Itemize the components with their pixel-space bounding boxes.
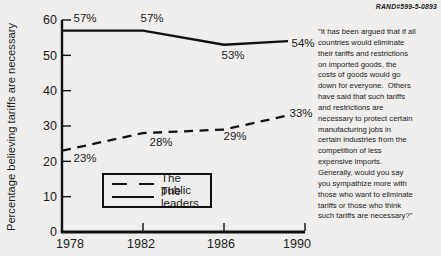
dashed-line-sample [112,183,154,185]
legend: The public The leaders [102,173,212,208]
x-tick-label: 1990 [283,237,311,251]
y-tick-label: 60 [43,13,57,27]
point-label: 23% [73,152,96,164]
x-tick-label: 1978 [56,237,84,251]
legend-item-leaders: The leaders [112,191,210,204]
point-label: 28% [149,136,172,148]
x-tick-label: 1982 [127,237,155,251]
legend-label-leaders: The leaders [161,185,210,209]
point-label: 33% [289,107,312,119]
y-tick-label: 40 [43,84,57,98]
point-label: 54% [291,37,314,49]
y-tick-label: 50 [43,49,57,63]
series-line-the-public [62,115,288,150]
point-label: 53% [221,49,244,61]
y-tick-label: 10 [43,190,57,204]
figure: RAND#599-5-0893 Percentage believing tar… [0,0,441,256]
y-tick-label: 20 [43,155,57,169]
survey-question-text: "It has been argued that if all countrie… [318,27,440,222]
solid-line-sample [112,196,154,198]
point-label: 29% [223,130,246,142]
y-tick-label: 30 [43,119,57,133]
series-line-the-leaders [62,31,288,45]
point-label: 57% [73,12,96,24]
point-label: 57% [140,12,163,24]
x-tick-label: 1986 [207,237,235,251]
